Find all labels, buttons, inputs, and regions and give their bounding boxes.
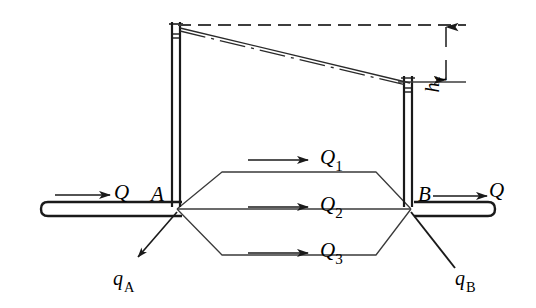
branch-pipe-3 (177, 209, 411, 255)
draw-off-b-label: qB (455, 268, 475, 292)
parallel-branch-loop (177, 172, 411, 255)
diagram-canvas (0, 0, 536, 308)
node-a-label: A (151, 184, 164, 205)
head-loss-label: hf (422, 78, 446, 93)
draw-off-b-line (411, 212, 455, 268)
standpipe-b (401, 76, 415, 207)
draw-off-a-label: qA (113, 268, 133, 292)
branch-3-label: Q3 (320, 240, 343, 265)
outlet-flow-label: Q (489, 180, 504, 201)
draw-off-a-arrow (138, 212, 177, 257)
branch-pipe-1 (177, 172, 411, 209)
inlet-flow-label: Q (114, 182, 129, 203)
branch-1-label: Q1 (320, 147, 343, 172)
standpipe-a (169, 22, 183, 207)
branch-2-label: Q2 (320, 194, 343, 219)
hydraulic-grade-line (180, 28, 410, 83)
node-b-label: B (418, 184, 431, 205)
pipe-network-diagram: Q A B Q Q1 Q2 Q3 qA qB hf (0, 0, 536, 308)
energy-grade-line (180, 31, 410, 86)
